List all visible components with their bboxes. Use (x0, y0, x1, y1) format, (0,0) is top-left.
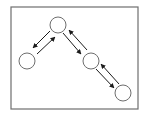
arrow-middle-right-to-bottom-right (96, 69, 114, 88)
arrow-top-to-left (33, 31, 50, 48)
node-middle-right (83, 53, 99, 69)
edge-group (33, 30, 119, 88)
arrow-top-to-middle-right (63, 33, 81, 54)
node-left (19, 53, 35, 69)
node-group (19, 17, 131, 101)
arrow-left-to-top (37, 37, 55, 54)
arrow-bottom-right-to-middle-right (101, 64, 119, 84)
node-top (50, 17, 66, 33)
node-bottom-right (115, 85, 131, 101)
chain-diagram (0, 0, 149, 118)
arrow-middle-right-to-top (69, 30, 87, 50)
